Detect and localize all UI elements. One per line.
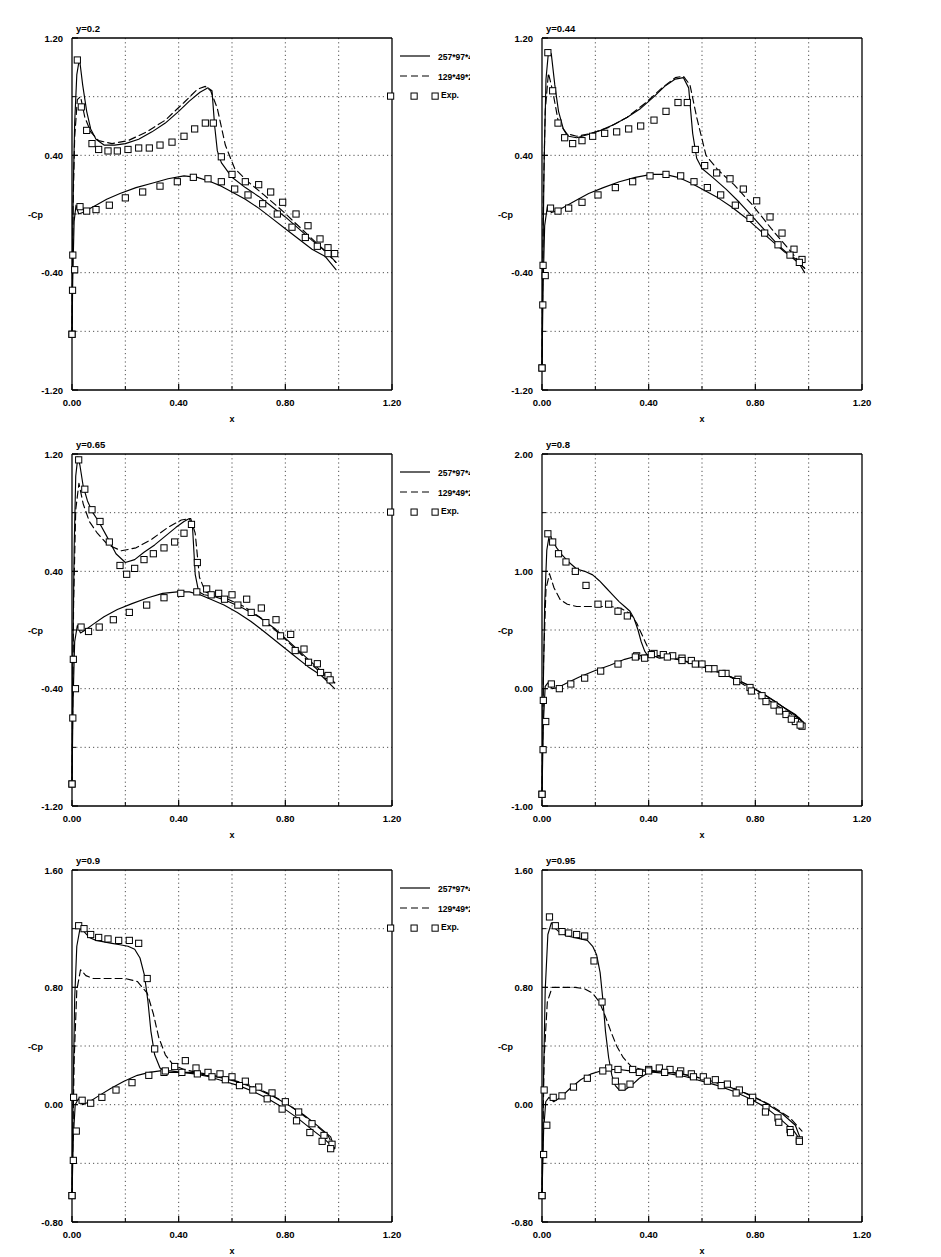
panel-title: y=0.95 xyxy=(546,855,576,866)
y-axis-label: -Cp xyxy=(28,1042,43,1052)
x-tick-label: 1.20 xyxy=(853,1229,872,1240)
x-tick-label: 1.20 xyxy=(383,1229,402,1240)
data-markers-3 xyxy=(539,531,805,798)
data-curve-1 xyxy=(72,176,336,334)
data-curve-0 xyxy=(542,923,802,1196)
y-axis-label: -Cp xyxy=(498,626,513,636)
panel-title: y=0.44 xyxy=(546,23,576,34)
y-tick-label: -1.20 xyxy=(41,801,63,812)
data-curve-1 xyxy=(72,1071,335,1196)
y-axis-label: -Cp xyxy=(28,210,43,220)
data-curve-2 xyxy=(542,987,802,1195)
y-tick-label: 0.00 xyxy=(45,1099,64,1110)
x-axis-label: x xyxy=(229,1246,234,1256)
chart-panel-5: 0.000.400.801.201.600.800.00-0.80x-Cpy=0… xyxy=(470,840,940,1256)
data-curve-0 xyxy=(72,929,335,1196)
panel-title: y=0.2 xyxy=(76,23,100,34)
data-markers-3 xyxy=(69,457,331,787)
x-tick-label: 0.00 xyxy=(63,1229,82,1240)
y-axis-label: -Cp xyxy=(28,626,43,636)
gridlines xyxy=(542,454,862,806)
legend: 257*97*49129*49*25Exp. xyxy=(388,468,471,517)
data-curve-0 xyxy=(542,50,805,368)
legend-label-coarse-grid: 129*49*25 xyxy=(438,488,470,498)
gridlines xyxy=(72,454,392,806)
pressure-coefficient-figure: 0.000.400.801.201.200.40-0.40-1.20x-Cpy=… xyxy=(0,0,941,1257)
panel-title: y=0.9 xyxy=(76,855,100,866)
y-tick-label: -0.40 xyxy=(41,683,63,694)
panel-title: y=0.65 xyxy=(76,439,106,450)
legend-label-experiment: Exp. xyxy=(441,922,459,932)
chart-svg: 0.000.400.801.201.200.40-0.40-1.20x-Cpy=… xyxy=(470,8,940,424)
y-tick-label: 2.00 xyxy=(515,449,534,460)
data-markers-3 xyxy=(539,914,803,1199)
x-axis-label: x xyxy=(699,414,704,424)
chart-panel-2: 0.000.400.801.201.200.40-0.40-1.20x-Cpy=… xyxy=(0,424,470,840)
y-tick-label: 1.60 xyxy=(515,865,534,876)
chart-svg: 0.000.400.801.202.001.000.00-1.00x-Cpy=0… xyxy=(470,424,940,840)
legend-label-experiment: Exp. xyxy=(441,90,459,100)
y-tick-label: -0.40 xyxy=(41,267,63,278)
data-curve-2 xyxy=(72,483,335,784)
x-tick-label: 0.00 xyxy=(533,813,552,824)
y-tick-label: 1.60 xyxy=(45,865,64,876)
data-curve-2 xyxy=(72,970,335,1196)
y-tick-label: 0.40 xyxy=(45,150,64,161)
legend-label-fine-grid: 257*97*49 xyxy=(438,468,470,478)
x-tick-label: 0.00 xyxy=(63,813,82,824)
x-tick-label: 0.40 xyxy=(169,1229,188,1240)
x-tick-label: 0.40 xyxy=(639,397,658,408)
gridlines xyxy=(72,870,392,1222)
gridlines xyxy=(72,38,392,390)
data-markers-4 xyxy=(69,589,333,787)
x-axis-label: x xyxy=(699,1246,704,1256)
x-axis-label: x xyxy=(699,830,704,840)
data-markers-4 xyxy=(539,652,803,798)
y-tick-label: 0.40 xyxy=(45,566,64,577)
data-curve-0 xyxy=(72,59,336,335)
x-tick-label: 1.20 xyxy=(383,397,402,408)
legend-label-fine-grid: 257*97*49 xyxy=(438,884,470,894)
x-axis-label: x xyxy=(229,830,234,840)
x-tick-label: 0.00 xyxy=(63,397,82,408)
x-tick-label: 0.80 xyxy=(746,813,765,824)
legend-label-coarse-grid: 129*49*25 xyxy=(438,904,470,914)
legend-label-fine-grid: 257*97*49 xyxy=(438,52,470,62)
chart-panel-0: 0.000.400.801.201.200.40-0.40-1.20x-Cpy=… xyxy=(0,8,470,424)
data-markers-4 xyxy=(539,1066,803,1198)
y-tick-label: -1.20 xyxy=(511,385,533,396)
x-tick-label: 0.80 xyxy=(746,1229,765,1240)
legend: 257*97*49129*49*25Exp. xyxy=(388,52,471,101)
data-markers-3 xyxy=(539,50,805,372)
y-axis-label: -Cp xyxy=(498,1042,513,1052)
gridlines xyxy=(542,870,862,1222)
y-axis-label: -Cp xyxy=(498,210,513,220)
chart-svg: 0.000.400.801.201.200.40-0.40-1.20x-Cpy=… xyxy=(0,424,470,840)
x-tick-label: 0.80 xyxy=(276,1229,295,1240)
y-tick-label: 1.00 xyxy=(515,566,534,577)
x-tick-label: 0.80 xyxy=(276,397,295,408)
y-tick-label: 0.40 xyxy=(515,150,534,161)
chart-svg: 0.000.400.801.201.600.800.00-0.80x-Cpy=0… xyxy=(470,840,940,1256)
data-curve-2 xyxy=(542,574,805,795)
data-markers-3 xyxy=(69,923,335,1199)
y-tick-label: 0.00 xyxy=(515,683,534,694)
x-axis-label: x xyxy=(229,414,234,424)
y-tick-label: 1.20 xyxy=(45,449,64,460)
y-tick-label: 0.80 xyxy=(45,982,64,993)
data-curve-1 xyxy=(542,1069,802,1195)
x-tick-label: 1.20 xyxy=(853,813,872,824)
chart-svg: 0.000.400.801.201.200.40-0.40-1.20x-Cpy=… xyxy=(0,8,470,424)
data-curve-2 xyxy=(542,73,805,368)
y-tick-label: 0.80 xyxy=(515,982,534,993)
x-tick-label: 0.40 xyxy=(169,397,188,408)
y-tick-label: -1.00 xyxy=(511,801,533,812)
data-markers-4 xyxy=(539,171,803,371)
y-tick-label: 1.20 xyxy=(45,33,64,44)
x-tick-label: 0.40 xyxy=(639,1229,658,1240)
y-tick-label: 1.20 xyxy=(515,33,534,44)
y-tick-label: -1.20 xyxy=(41,385,63,396)
legend-label-experiment: Exp. xyxy=(441,506,459,516)
x-tick-label: 0.40 xyxy=(169,813,188,824)
x-tick-label: 1.20 xyxy=(853,397,872,408)
